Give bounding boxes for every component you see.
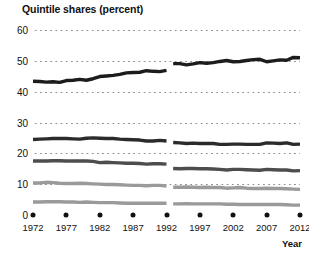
y-axis-labels: 0102030405060 — [0, 30, 28, 215]
x-axis-labels: 197219771982198719921997200220072012 — [0, 222, 309, 236]
y-tick-label: 50 — [8, 55, 28, 66]
y-tick-label: 10 — [8, 179, 28, 190]
x-tick-label: 2007 — [256, 222, 277, 233]
series-line-3-seg2 — [173, 168, 300, 170]
series-line-4-seg1 — [33, 182, 167, 186]
series-svg — [33, 30, 300, 215]
x-tick-label: 1982 — [89, 222, 110, 233]
series-line-4-seg2 — [173, 187, 300, 189]
series-line-1-seg1 — [33, 70, 167, 82]
y-tick-label: 60 — [8, 25, 28, 36]
x-tick-label: 2012 — [289, 222, 309, 233]
chart-title: Quintile shares (percent) — [22, 3, 143, 15]
y-tick-label: 30 — [8, 117, 28, 128]
x-tick-label: 1992 — [156, 222, 177, 233]
x-tick-label: 1972 — [22, 222, 43, 233]
x-axis-title: Year — [282, 238, 302, 249]
y-tick-label: 40 — [8, 86, 28, 97]
series-line-2-seg2 — [173, 143, 300, 145]
x-tick-label: 2002 — [223, 222, 244, 233]
y-tick-label: 0 — [8, 210, 28, 221]
series-line-1-seg2 — [173, 57, 300, 64]
series-lines — [33, 30, 300, 215]
series-line-2-seg1 — [33, 138, 167, 141]
y-tick-label: 20 — [8, 148, 28, 159]
x-tick-label: 1977 — [56, 222, 77, 233]
series-line-5-seg1 — [33, 202, 167, 204]
gridline-0 — [33, 215, 300, 216]
series-line-3-seg1 — [33, 161, 167, 164]
series-line-5-seg2 — [173, 204, 300, 206]
chart-root: Quintile shares (percent) 0102030405060 … — [0, 0, 309, 257]
plot-area — [33, 30, 300, 215]
x-tick-label: 1997 — [189, 222, 210, 233]
x-tick-label: 1987 — [123, 222, 144, 233]
